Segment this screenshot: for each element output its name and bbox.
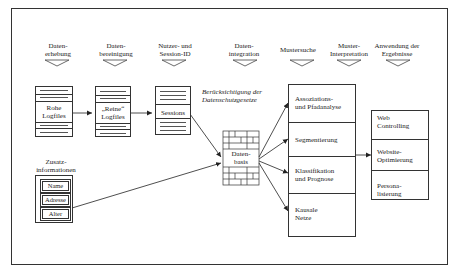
extra-info-title-text: Zusatz- — [33, 158, 79, 166]
doc-clean-logfiles: „Reine“ Logfiles — [95, 86, 131, 137]
app-text: Web — [377, 114, 428, 122]
method-text: und Pfadanalyse — [295, 103, 355, 111]
database-text: basis — [224, 158, 258, 166]
app-text: lisierung — [377, 190, 428, 198]
applications-stack: Web Controlling Website- Optimierung Per… — [371, 110, 429, 200]
stage-triangles — [45, 60, 410, 66]
database-label: Daten- basis — [224, 150, 258, 166]
field-age: Alter — [42, 209, 69, 219]
method-association: Assoziations- und Pfadanalyse — [289, 85, 355, 122]
extra-info-title-text: informationen — [33, 166, 79, 174]
arrow-sessions-to-db — [190, 114, 221, 157]
method-text: Segmentierung — [295, 136, 355, 144]
method-segmentation: Segmentierung — [289, 122, 355, 156]
method-text: und Prognose — [295, 175, 355, 183]
privacy-note-text: Berücksichtigung der — [202, 88, 262, 96]
app-web-controlling: Web Controlling — [372, 111, 428, 139]
field-address: Adresse — [42, 195, 69, 205]
app-text: Optimierung — [377, 156, 428, 164]
app-text: Controlling — [377, 122, 428, 130]
doc-sessions: Sessions — [155, 86, 191, 135]
method-causal-nets: Kausale Netze — [289, 193, 355, 237]
app-text: Website- — [377, 148, 428, 156]
extra-info-box: Name Adresse Alter — [35, 175, 73, 223]
doc-label: Rohe — [36, 104, 72, 112]
method-classification: Klassifikation und Prognose — [289, 156, 355, 193]
method-text: Netze — [295, 214, 355, 222]
privacy-note: Berücksichtigung der Datenschutzgesetze — [202, 88, 262, 104]
database-text: Daten- — [224, 150, 258, 158]
doc-label: Logfiles — [96, 113, 130, 121]
doc-raw-logfiles: Rohe Logfiles — [35, 86, 73, 137]
method-text: Kausale — [295, 206, 355, 214]
arrow-db-to-causal — [259, 163, 288, 211]
doc-label: Sessions — [156, 109, 190, 117]
app-personalization: Persona- lisierung — [372, 170, 428, 200]
method-text: Klassifikation — [295, 167, 355, 175]
app-website-optimization: Website- Optimierung — [372, 139, 428, 170]
methods-stack: Assoziations- und Pfadanalyse Segmentier… — [288, 84, 356, 237]
app-text: Persona- — [377, 182, 428, 190]
arrow-extra-to-db — [72, 163, 221, 208]
method-text: Assoziations- — [295, 95, 355, 103]
doc-label: „Reine“ — [96, 105, 130, 113]
field-name: Name — [42, 181, 69, 191]
doc-label: Logfiles — [36, 112, 72, 120]
arrow-db-to-classif — [259, 161, 288, 173]
extra-info-title: Zusatz- informationen — [33, 158, 79, 174]
privacy-note-text: Datenschutzgesetze — [202, 96, 262, 104]
